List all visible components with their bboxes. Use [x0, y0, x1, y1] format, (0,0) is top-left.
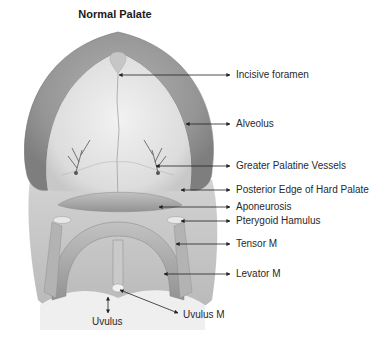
- label-pterygoid-hamulus: Pterygoid Hamulus: [236, 215, 320, 227]
- label-uvulus: Uvulus: [92, 316, 123, 328]
- label-tensor-m: Tensor M: [236, 238, 277, 250]
- label-aponeurosis: Aponeurosis: [236, 201, 292, 213]
- uvula-art: [113, 240, 123, 290]
- label-uvulus-m: Uvulus M: [183, 309, 225, 321]
- label-posterior-edge-hard-palate: Posterior Edge of Hard Palate: [236, 184, 369, 196]
- label-incisive-foramen: Incisive foramen: [236, 69, 309, 81]
- label-greater-palatine-vessels: Greater Palatine Vessels: [236, 160, 346, 172]
- label-alveolus: Alveolus: [236, 118, 274, 130]
- label-levator-m: Levator M: [236, 268, 280, 280]
